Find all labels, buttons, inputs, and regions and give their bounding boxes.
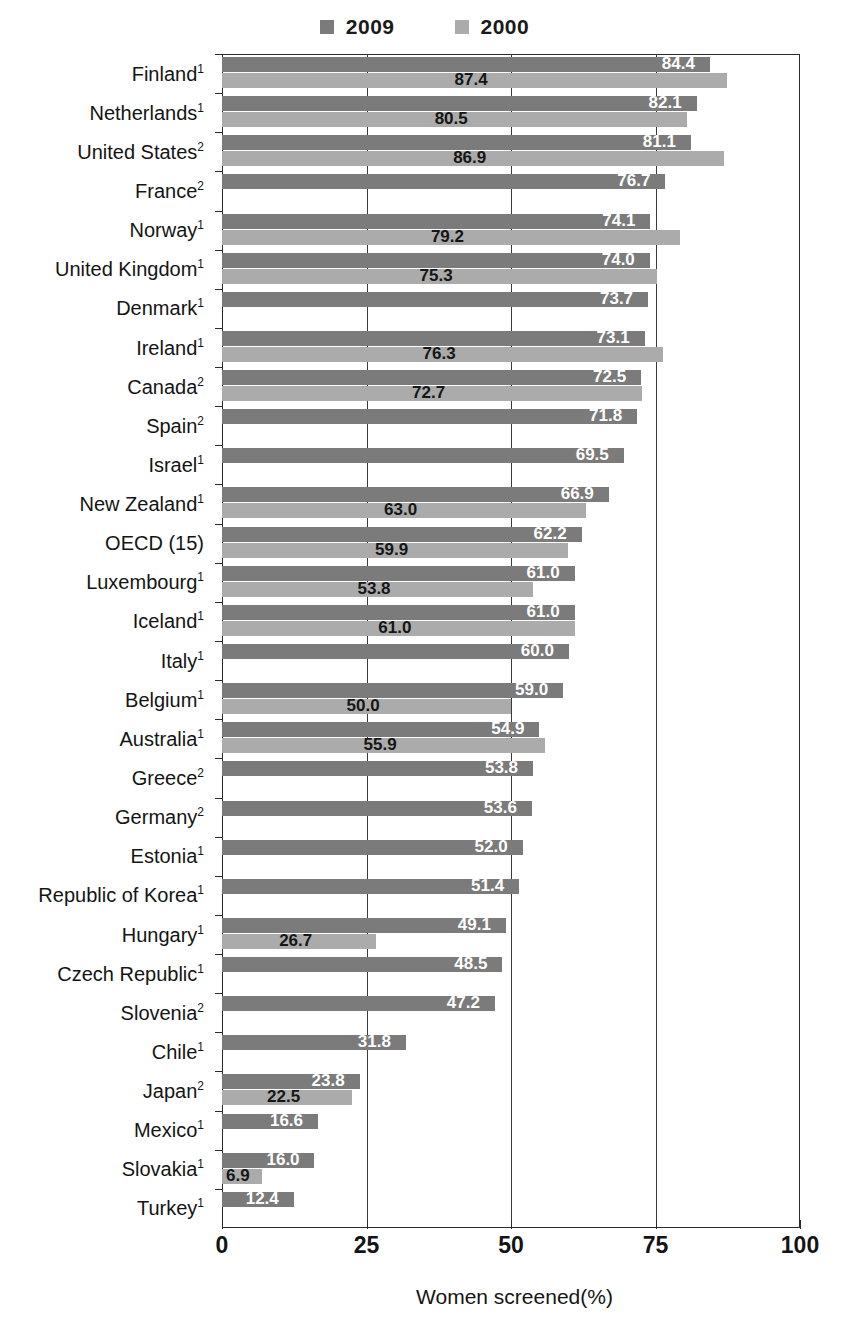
category-footnote-marker: 1 xyxy=(197,688,204,702)
bar-2009 xyxy=(222,448,624,463)
bar-value-2000: 63.0 xyxy=(384,502,417,517)
category-tick xyxy=(215,445,222,446)
bar-value-2000: 76.3 xyxy=(423,346,456,361)
bar-value-2009: 73.1 xyxy=(597,330,630,345)
table-row: 49.126.7 xyxy=(222,915,800,954)
category-footnote-marker: 1 xyxy=(197,453,204,467)
category-footnote-marker: 1 xyxy=(197,884,204,898)
bar-value-2009: 53.6 xyxy=(484,800,517,815)
category-label: Estonia1 xyxy=(131,846,204,866)
table-row: 51.4 xyxy=(222,876,800,915)
category-label: Turkey1 xyxy=(137,1198,204,1218)
category-footnote-marker: 2 xyxy=(197,1079,204,1093)
category-label: Greece2 xyxy=(132,768,204,788)
table-row: 76.7 xyxy=(222,171,800,210)
bar-value-2009: 47.2 xyxy=(447,995,480,1010)
table-row: 16.06.9 xyxy=(222,1150,800,1189)
category-tick xyxy=(215,876,222,877)
bar-value-2009: 62.2 xyxy=(534,526,567,541)
table-row: 54.955.9 xyxy=(222,719,800,758)
category-tick xyxy=(215,837,222,838)
table-row: 84.487.4 xyxy=(222,54,800,93)
x-tick-label-25: 25 xyxy=(354,1232,380,1259)
category-label: Hungary1 xyxy=(122,925,204,945)
category-footnote-marker: 1 xyxy=(197,297,204,311)
category-tick xyxy=(215,1111,222,1112)
legend-label-2009: 2009 xyxy=(346,15,395,39)
category-tick xyxy=(215,915,222,916)
x-tick-label-100: 100 xyxy=(781,1232,819,1259)
category-label: Netherlands1 xyxy=(89,103,204,123)
bar-value-2009: 76.7 xyxy=(617,173,650,188)
category-label: Belgium1 xyxy=(125,690,204,710)
bar-value-2000: 6.9 xyxy=(226,1168,250,1183)
category-tick xyxy=(215,406,222,407)
table-row: 59.050.0 xyxy=(222,680,800,719)
bar-2009 xyxy=(222,644,569,659)
bar-value-2000: 26.7 xyxy=(279,933,312,948)
bar-value-2009: 82.1 xyxy=(649,95,682,110)
category-tick xyxy=(215,484,222,485)
legend-label-2000: 2000 xyxy=(481,15,530,39)
table-row: 71.8 xyxy=(222,406,800,445)
category-label: Luxembourg1 xyxy=(86,572,204,592)
bar-2009 xyxy=(222,174,665,189)
table-row: 74.179.2 xyxy=(222,211,800,250)
table-row: 48.5 xyxy=(222,954,800,993)
bar-2009 xyxy=(222,566,575,581)
category-footnote-marker: 1 xyxy=(197,962,204,976)
bar-value-2009: 52.0 xyxy=(475,839,508,854)
table-row: 47.2 xyxy=(222,993,800,1032)
category-tick xyxy=(215,93,222,94)
table-row: 61.053.8 xyxy=(222,563,800,602)
category-footnote-marker: 1 xyxy=(197,649,204,663)
bar-value-2000: 50.0 xyxy=(347,698,380,713)
category-footnote-marker: 1 xyxy=(197,101,204,115)
bar-value-2009: 66.9 xyxy=(561,486,594,501)
bar-value-2009: 69.5 xyxy=(576,447,609,462)
category-label: Slovakia1 xyxy=(122,1159,204,1179)
bar-value-2009: 61.0 xyxy=(527,565,560,580)
category-label: Italy1 xyxy=(161,651,204,671)
bar-value-2000: 61.0 xyxy=(378,620,411,635)
category-footnote-marker: 1 xyxy=(197,610,204,624)
category-tick xyxy=(215,1150,222,1151)
category-tick xyxy=(215,641,222,642)
bar-value-2000: 87.4 xyxy=(455,72,488,87)
category-axis-labels: Finland1Netherlands1United States2France… xyxy=(0,54,212,1228)
bar-value-2000: 75.3 xyxy=(420,268,453,283)
table-row: 73.176.3 xyxy=(222,328,800,367)
category-tick xyxy=(215,1032,222,1033)
category-tick xyxy=(215,171,222,172)
category-label: Czech Republic1 xyxy=(57,964,204,984)
category-footnote-marker: 2 xyxy=(197,414,204,428)
table-row: 52.0 xyxy=(222,837,800,876)
bar-2009 xyxy=(222,292,648,307)
category-label: Republic of Korea1 xyxy=(38,885,204,905)
bar-value-2009: 72.5 xyxy=(593,369,626,384)
bar-2009 xyxy=(222,683,563,698)
category-label: Canada2 xyxy=(127,377,204,397)
bar-value-2009: 16.0 xyxy=(266,1152,299,1167)
bar-value-2009: 74.0 xyxy=(602,252,635,267)
category-label: Japan2 xyxy=(143,1081,204,1101)
table-row: 61.061.0 xyxy=(222,602,800,641)
bar-value-2009: 51.4 xyxy=(471,878,504,893)
category-tick xyxy=(215,719,222,720)
table-row: 31.8 xyxy=(222,1032,800,1071)
category-tick xyxy=(215,1071,222,1072)
category-footnote-marker: 1 xyxy=(197,923,204,937)
category-footnote-marker: 2 xyxy=(197,766,204,780)
table-row: 81.186.9 xyxy=(222,132,800,171)
category-footnote-marker: 1 xyxy=(197,1158,204,1172)
bar-value-2009: 31.8 xyxy=(358,1034,391,1049)
chart-legend: 2009 2000 xyxy=(0,10,849,44)
category-footnote-marker: 1 xyxy=(197,1197,204,1211)
bar-value-2000: 53.8 xyxy=(357,581,390,596)
bar-value-2009: 71.8 xyxy=(589,408,622,423)
table-row: 82.180.5 xyxy=(222,93,800,132)
bar-value-2000: 59.9 xyxy=(375,542,408,557)
legend-swatch-2009 xyxy=(320,20,334,34)
category-footnote-marker: 1 xyxy=(197,492,204,506)
category-footnote-marker: 1 xyxy=(197,1119,204,1133)
